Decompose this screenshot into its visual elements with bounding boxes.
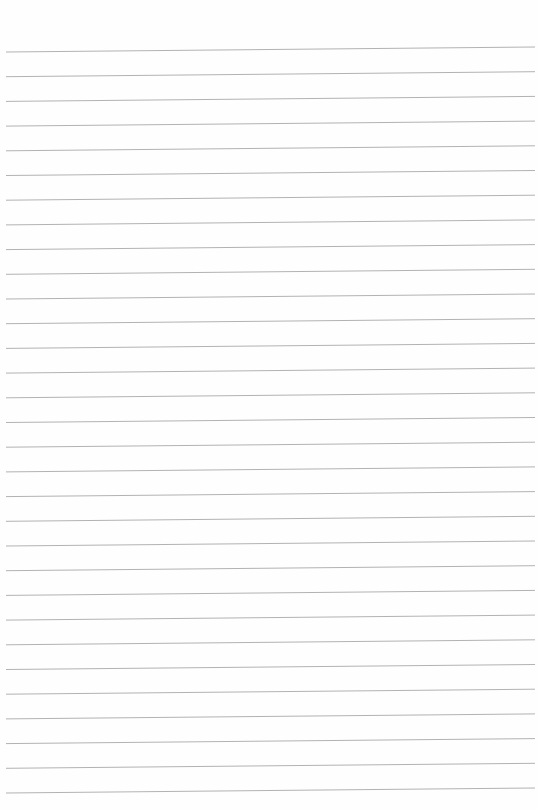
ruled-line bbox=[6, 121, 535, 126]
ruled-line bbox=[6, 343, 535, 348]
ruled-line bbox=[6, 245, 535, 250]
ruled-line bbox=[6, 47, 535, 52]
ruled-line bbox=[6, 319, 535, 324]
ruled-lines bbox=[0, 0, 538, 810]
ruled-line bbox=[6, 492, 535, 497]
ruled-line bbox=[6, 739, 535, 744]
ruled-line bbox=[6, 171, 535, 176]
ruled-line bbox=[6, 96, 535, 101]
ruled-line bbox=[6, 516, 535, 521]
ruled-line bbox=[6, 442, 535, 447]
ruled-line bbox=[6, 763, 535, 768]
ruled-line bbox=[6, 566, 535, 571]
ruled-line bbox=[6, 541, 535, 546]
ruled-line bbox=[6, 72, 535, 77]
ruled-line bbox=[6, 665, 535, 670]
ruled-line bbox=[6, 689, 535, 694]
ruled-line bbox=[6, 418, 535, 423]
ruled-line bbox=[6, 220, 535, 225]
ruled-line bbox=[6, 615, 535, 620]
ruled-line bbox=[6, 393, 535, 398]
ruled-line bbox=[6, 640, 535, 645]
ruled-line bbox=[6, 195, 535, 200]
ruled-line bbox=[6, 788, 535, 793]
ruled-line bbox=[6, 368, 535, 373]
ruled-paper-sheet bbox=[0, 0, 538, 810]
ruled-line bbox=[6, 467, 535, 472]
ruled-line bbox=[6, 269, 535, 274]
ruled-line bbox=[6, 590, 535, 595]
ruled-line bbox=[6, 294, 535, 299]
ruled-line bbox=[6, 146, 535, 151]
ruled-line bbox=[6, 714, 535, 719]
